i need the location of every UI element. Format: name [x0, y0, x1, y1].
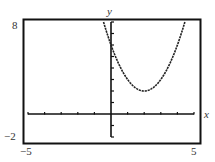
ymax-label: 8 [12, 19, 18, 31]
graph: 8 −2 −5 5 y x [0, 0, 215, 162]
parabola-curve [104, 22, 185, 91]
xmin-label: −5 [20, 145, 32, 157]
x-axis-label: x [203, 108, 209, 120]
xmax-label: 5 [191, 145, 197, 157]
y-axis-label: y [106, 5, 112, 17]
ymin-label: −2 [4, 130, 16, 142]
